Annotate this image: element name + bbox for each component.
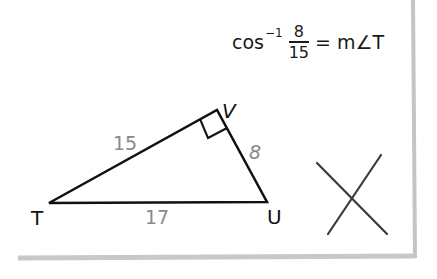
side-label-tu: 17 (145, 206, 169, 228)
triangle-tuv (49, 110, 267, 203)
formula-equals: = (315, 31, 331, 53)
cross-out-icon (317, 155, 387, 234)
formula-function: cos (232, 31, 264, 53)
side-label-vu: 8 (249, 141, 261, 163)
vertex-label-u: U (267, 205, 282, 229)
side-label-tv: 15 (113, 132, 137, 154)
formula-fraction: 8 15 (289, 23, 309, 61)
fraction-denominator: 15 (289, 44, 309, 61)
vertex-label-t: T (31, 206, 43, 230)
worksheet-card: T V U 15 8 17 cos −1 8 15 = m∠T (0, 0, 437, 279)
formula-exponent: −1 (265, 26, 283, 40)
card-right-border (413, 0, 415, 258)
card-bottom-border (18, 256, 415, 258)
inverse-cosine-formula: cos −1 8 15 = m∠T (232, 20, 384, 64)
formula-rhs: m∠T (337, 31, 384, 53)
vertex-label-v: V (222, 99, 236, 123)
fraction-numerator: 8 (294, 23, 304, 40)
